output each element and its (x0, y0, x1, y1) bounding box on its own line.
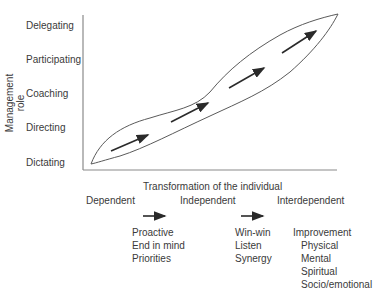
stage-independent: Independent (180, 194, 236, 207)
growth-band-shape (91, 14, 338, 164)
list-item: Win-win (235, 226, 272, 239)
y-label-delegating: Delegating (26, 20, 74, 31)
progress-arrow-1 (111, 135, 148, 151)
y-label-coaching: Coaching (26, 88, 68, 99)
y-label-participating: Participating (26, 54, 81, 65)
progress-arrow-4 (282, 31, 316, 53)
stage-dependent: Dependent (86, 194, 135, 207)
y-label-directing: Directing (26, 122, 65, 133)
list-item: Synergy (235, 252, 272, 265)
list-item: Physical (293, 239, 372, 252)
y-label-dictating: Dictating (26, 157, 65, 168)
stage-interdependent: Interdependent (277, 194, 344, 207)
progress-arrow-3 (229, 68, 264, 88)
independent-item-list: Proactive End in mind Priorities (132, 226, 185, 265)
improvement-title: Improvement (293, 226, 372, 239)
list-item: Spiritual (293, 265, 372, 278)
list-item: Proactive (132, 226, 185, 239)
interdependent-item-list: Win-win Listen Synergy (235, 226, 272, 265)
list-item: Listen (235, 239, 272, 252)
list-item: Priorities (132, 252, 185, 265)
list-item: Socio/emotional (293, 278, 372, 290)
y-axis-title: Management role (4, 68, 26, 138)
list-item: End in mind (132, 239, 185, 252)
list-item: Mental (293, 252, 372, 265)
improvement-list: Improvement Physical Mental Spiritual So… (293, 226, 372, 290)
x-axis-title: Transformation of the individual (143, 180, 282, 193)
